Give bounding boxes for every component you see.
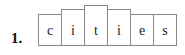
letter-box-2[interactable]: i	[61, 9, 85, 46]
letter-glyph-5: e	[139, 24, 145, 45]
letter-glyph-2: i	[71, 24, 75, 45]
letter-box-3[interactable]: t	[84, 5, 108, 46]
letter-glyph-3: t	[94, 24, 98, 45]
letter-box-6[interactable]: s	[153, 14, 177, 46]
letter-glyph-6: s	[162, 24, 167, 45]
word-shape-exercise: 1. c i t i e s	[0, 0, 185, 55]
letter-box-1[interactable]: c	[38, 14, 62, 46]
letter-box-row: c i t i e s	[38, 0, 182, 46]
letter-box-4[interactable]: i	[107, 9, 131, 46]
item-number-label: 1.	[11, 31, 22, 46]
letter-box-5[interactable]: e	[130, 14, 154, 46]
letter-glyph-1: c	[47, 24, 53, 45]
letter-glyph-4: i	[117, 24, 121, 45]
